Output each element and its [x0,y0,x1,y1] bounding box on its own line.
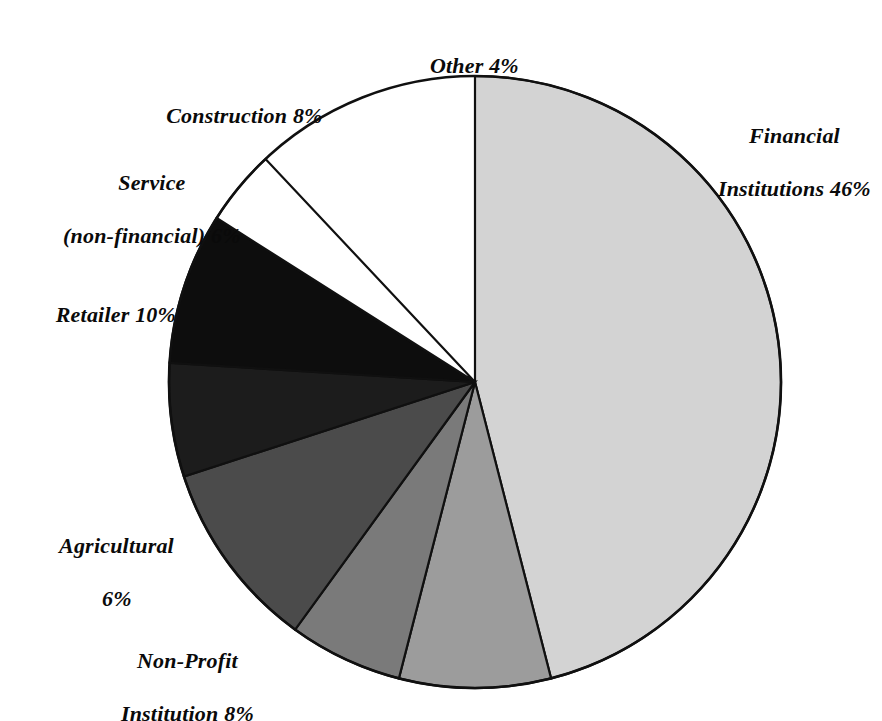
slice-label-service-line1: Service [118,170,185,195]
pie-chart: Other 4% Construction 8% Service (non-fi… [0,0,882,721]
slice-label-nonprofit-line2: Institution 8% [121,701,254,721]
slice-label-financial-line1: Financial [749,123,840,148]
slice-label-other: Other 4% [388,26,538,106]
slice-label-service: Service (non-financial) 6% [28,143,253,277]
slice-label-nonprofit: Non-Profit Institution 8% [62,621,290,721]
slice-label-financial-line2: Institutions 46% [718,176,871,201]
slice-label-agricultural-line2: 6% [102,586,132,611]
slice-label-other-text: Other 4% [430,53,519,78]
slice-label-nonprofit-line1: Non-Profit [137,648,238,673]
slice-label-service-line2: (non-financial) 6% [63,223,241,248]
slice-label-retailer: Retailer 10% [22,275,187,355]
slice-label-retailer-text: Retailer 10% [56,302,176,327]
slice-label-construction-text: Construction 8% [166,103,322,128]
slice-label-financial: Financial Institutions 46% [690,96,876,230]
slice-label-agricultural-line1: Agricultural [59,533,174,558]
